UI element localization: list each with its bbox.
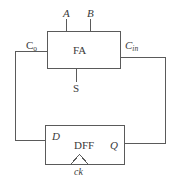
clock-triangle-icon [71, 155, 89, 165]
label-full-adder: FA [73, 45, 86, 56]
label-carry-in: Cin [125, 40, 138, 51]
label-output-sum: S [73, 83, 79, 94]
label-input-a: A [63, 8, 70, 19]
label-carry-out-subscript: o [33, 44, 37, 53]
label-dff-d-input: D [52, 131, 60, 142]
diagram-wiring-layer [0, 0, 180, 194]
label-carry-out: Co [26, 40, 37, 51]
label-dff-q-output: Q [110, 140, 118, 151]
label-input-b: B [87, 8, 94, 19]
label-dff: DFF [74, 140, 94, 151]
wire-carry-in-feedback [121, 58, 166, 144]
label-clock: ck [74, 167, 83, 177]
label-carry-in-subscript: in [132, 44, 138, 53]
serial-adder-diagram: A B Co Cin FA S D DFF Q ck [0, 0, 180, 194]
wire-carry-out-feedback [16, 52, 48, 141]
